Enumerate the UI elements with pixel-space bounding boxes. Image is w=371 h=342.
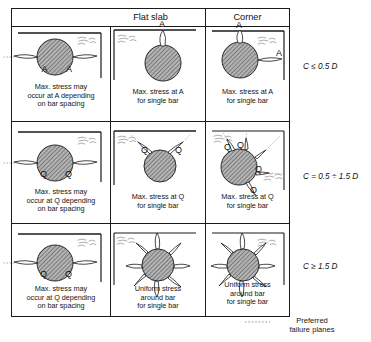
- caption-r2c2: Max. stress at Q for single bar: [112, 193, 204, 210]
- svg-text:Q: Q: [224, 142, 231, 152]
- svg-text:Q: Q: [65, 269, 72, 279]
- svg-text:A: A: [42, 64, 48, 74]
- cell-graphic-r1c1: A A: [3, 33, 101, 78]
- caption-r3c1: Max. stress may occur at Q depending on …: [13, 285, 109, 311]
- cell-graphic-r1c2: A: [114, 19, 196, 81]
- svg-text:Q: Q: [141, 145, 148, 155]
- caption-r1c2: Max. stress at A for single bar: [112, 88, 204, 105]
- caption-r3c3: Uniform stress around bar for single bar: [206, 281, 289, 307]
- caption-r3c2: Uniform stress around bar for single bar: [112, 285, 204, 311]
- caption-line: on bar spacing: [13, 205, 109, 214]
- caption-line: on bar spacing: [13, 302, 109, 311]
- svg-text:Q: Q: [237, 140, 244, 150]
- failure-plane-diagram: A A A A A: [0, 0, 371, 342]
- legend-label: Preferred failure planes: [272, 317, 352, 335]
- legend-line: failure planes: [272, 326, 352, 335]
- svg-text:Q: Q: [40, 269, 47, 279]
- cell-graphic-r2c3: Q Q Q Q: [212, 131, 284, 200]
- cell-graphic-r1c3: A A: [212, 20, 284, 80]
- svg-text:Q: Q: [40, 169, 47, 179]
- row-label-1: C ≤ 0.5 D: [303, 62, 338, 71]
- caption-line: for single bar: [206, 202, 289, 211]
- caption-line: for single bar: [112, 302, 204, 311]
- caption-line: for single bar: [206, 298, 289, 307]
- cell-graphic-r2c2: Q Q: [114, 131, 196, 185]
- svg-text:Q: Q: [65, 169, 72, 179]
- svg-text:Q: Q: [175, 145, 182, 155]
- svg-text:A: A: [276, 48, 282, 58]
- caption-line: for single bar: [112, 202, 204, 211]
- row-label-2: C = 0.5 ÷ 1.5 D: [303, 172, 358, 181]
- column-header-corner: Corner: [205, 12, 290, 22]
- row-label-3: C ≥ 1.5 D: [303, 262, 338, 271]
- caption-r2c1: Max. stress may occur at Q depending on …: [13, 188, 109, 214]
- caption-line: on bar spacing: [13, 100, 109, 109]
- caption-r1c1: Max. stress may occur at A depending on …: [13, 83, 109, 109]
- caption-r2c3: Max. stress at Q for single bar: [206, 193, 289, 210]
- caption-line: for single bar: [112, 97, 204, 106]
- cell-graphic-r3c1: Q Q: [3, 234, 101, 282]
- caption-r1c3: Max. stress at A for single bar: [206, 88, 289, 105]
- caption-line: for single bar: [206, 97, 289, 106]
- cell-graphic-r2c1: Q Q: [3, 132, 101, 182]
- svg-text:A: A: [66, 64, 72, 74]
- svg-text:Q: Q: [255, 164, 262, 174]
